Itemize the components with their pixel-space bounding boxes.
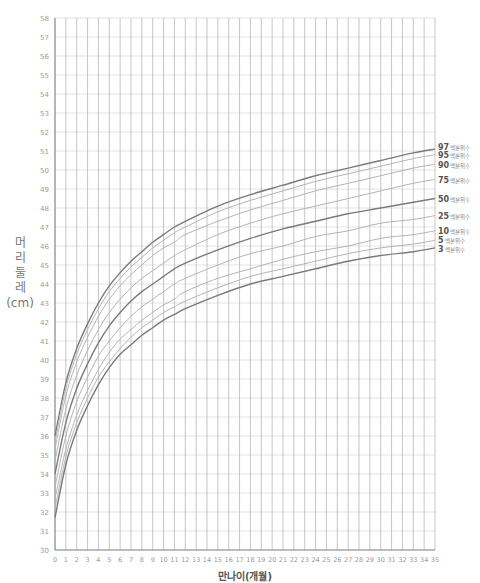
- x-tick-label: 27: [344, 556, 352, 564]
- y-tick-label: 40: [40, 357, 49, 365]
- percentile-label-95: 95백분위수: [438, 151, 470, 160]
- y-tick-label: 56: [40, 53, 49, 61]
- y-tick-label: 49: [40, 186, 49, 194]
- x-tick-label: 24: [311, 556, 319, 564]
- y-tick-label: 45: [40, 262, 49, 270]
- x-tick-label: 11: [170, 556, 178, 564]
- x-tick-label: 13: [192, 556, 200, 564]
- x-tick-label: 14: [203, 556, 211, 564]
- y-tick-label: 35: [40, 452, 49, 460]
- percentile-curve-50: [55, 199, 435, 475]
- y-tick-label: 42: [40, 319, 49, 327]
- x-tick-label: 12: [181, 556, 189, 564]
- x-tick-label: 33: [409, 556, 417, 564]
- x-tick-label: 28: [355, 556, 363, 564]
- y-tick-label: 55: [40, 72, 49, 80]
- y-tick-label: 57: [40, 34, 49, 42]
- x-tick-label: 7: [129, 556, 133, 564]
- percentile-label-3: 3백분위수: [438, 245, 465, 254]
- x-tick-label: 15: [214, 556, 222, 564]
- y-tick-label: 39: [40, 376, 49, 384]
- x-tick-label: 3: [86, 556, 90, 564]
- y-tick-label: 37: [40, 414, 49, 422]
- y-tick-label: 48: [40, 205, 49, 213]
- x-tick-label: 29: [366, 556, 374, 564]
- y-axis-label-char: 리: [2, 251, 38, 266]
- x-tick-label: 19: [257, 556, 265, 564]
- percentile-curve-97: [55, 149, 435, 436]
- percentile-label-50: 50백분위수: [438, 195, 470, 204]
- y-tick-label: 30: [40, 547, 49, 555]
- percentile-label-10: 10백분위수: [438, 227, 470, 236]
- percentile-curve-75: [55, 180, 435, 461]
- x-tick-label: 21: [279, 556, 287, 564]
- y-tick-label: 52: [40, 129, 49, 137]
- x-tick-label: 1: [64, 556, 68, 564]
- percentile-label-25: 25백분위수: [438, 212, 470, 221]
- y-tick-label: 43: [40, 300, 49, 308]
- y-tick-label: 32: [40, 509, 49, 517]
- percentile-curve-90: [55, 164, 435, 449]
- x-tick-label: 25: [322, 556, 330, 564]
- x-tick-label: 0: [53, 556, 57, 564]
- x-tick-label: 9: [151, 556, 155, 564]
- x-tick-label: 6: [118, 556, 122, 564]
- x-tick-label: 22: [290, 556, 298, 564]
- x-tick-label: 10: [159, 556, 167, 564]
- y-tick-label: 31: [40, 528, 49, 536]
- x-tick-label: 26: [333, 556, 341, 564]
- percentile-label-75: 75백분위수: [438, 176, 470, 185]
- percentile-curve-95: [55, 155, 435, 442]
- x-axis-label: 만나이(개월): [200, 568, 290, 583]
- percentile-curve-5: [55, 240, 435, 508]
- y-tick-label: 41: [40, 338, 49, 346]
- y-tick-label: 47: [40, 224, 49, 232]
- y-tick-label: 44: [40, 281, 49, 289]
- grid: [55, 18, 435, 550]
- x-tick-label: 5: [107, 556, 111, 564]
- y-tick-label: 54: [40, 91, 49, 99]
- y-axis-label: 머 리 둘 레 (cm): [2, 236, 38, 311]
- y-tick-label: 50: [40, 167, 49, 175]
- x-tick-label: 20: [268, 556, 276, 564]
- x-tick-label: 32: [398, 556, 406, 564]
- x-tick-label: 4: [96, 556, 100, 564]
- y-axis-label-unit: (cm): [2, 296, 38, 311]
- y-axis-label-char: 머: [2, 236, 38, 251]
- x-tick-label: 2: [75, 556, 79, 564]
- y-axis-label-char: 레: [2, 281, 38, 296]
- x-tick-label: 30: [377, 556, 385, 564]
- percentile-label-90: 90백분위수: [438, 161, 470, 170]
- y-tick-label: 34: [40, 471, 49, 479]
- x-tick-label: 35: [431, 556, 439, 564]
- y-tick-label: 58: [40, 15, 49, 23]
- x-tick-label: 31: [387, 556, 395, 564]
- x-tick-label: 34: [420, 556, 428, 564]
- x-tick-label: 16: [225, 556, 233, 564]
- x-tick-label: 17: [235, 556, 243, 564]
- x-tick-label: 8: [140, 556, 144, 564]
- y-tick-label: 51: [40, 148, 49, 156]
- y-tick-label: 38: [40, 395, 49, 403]
- y-tick-label: 46: [40, 243, 49, 251]
- y-axis-label-char: 둘: [2, 266, 38, 281]
- y-tick-label: 36: [40, 433, 49, 441]
- x-tick-label: 23: [301, 556, 309, 564]
- y-tick-label: 33: [40, 490, 49, 498]
- y-tick-label: 53: [40, 110, 49, 118]
- x-tick-label: 18: [246, 556, 254, 564]
